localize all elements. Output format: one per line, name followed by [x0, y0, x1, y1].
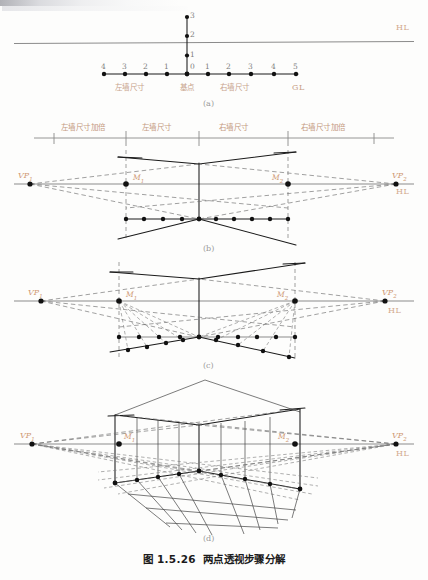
figure-caption-title: 两点透视步骤分解 [203, 553, 285, 565]
panel-d-graphics [14, 380, 414, 535]
figure-caption-number: 图 1.5.26 [143, 553, 196, 565]
panel-b-graphics [14, 131, 414, 245]
figure-page: .solid { stroke:#1a1a1a; stroke-width:1.… [0, 0, 428, 580]
figure-caption: 图 1.5.26两点透视步骤分解 [0, 551, 428, 566]
panel-a-graphics [14, 15, 414, 77]
perspective-figure: .solid { stroke:#1a1a1a; stroke-width:1.… [0, 0, 428, 580]
panel-c-graphics [14, 262, 414, 360]
